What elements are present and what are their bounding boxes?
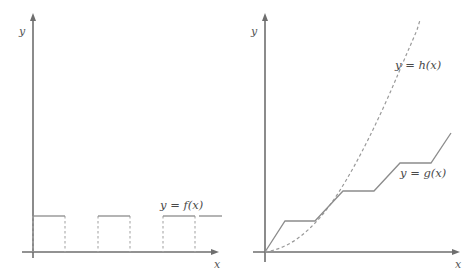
left-panel-x-axis: x	[22, 249, 221, 271]
x-axis-label: x	[455, 258, 462, 271]
y-axis-label: y	[250, 25, 258, 38]
y-axis-label: y	[18, 25, 26, 38]
x-axis-arrowhead	[452, 249, 460, 255]
curve-g	[265, 133, 451, 252]
figure-container: y x y = f(x)	[0, 0, 473, 280]
curve-f	[33, 216, 222, 252]
right-panel-y-axis: y	[250, 13, 268, 262]
x-axis-label: x	[214, 258, 221, 271]
x-axis-arrowhead	[211, 249, 219, 255]
curve-h	[265, 20, 420, 252]
curve-label-f: y = f(x)	[159, 198, 203, 212]
right-panel-x-axis: x	[253, 249, 462, 271]
curve-label-g: y = g(x)	[399, 166, 446, 180]
y-axis-arrowhead	[262, 13, 268, 21]
y-axis-arrowhead	[30, 13, 36, 21]
left-panel: y x y = f(x)	[0, 0, 237, 280]
curve-label-h: y = h(x)	[394, 58, 441, 72]
right-panel: y x y = h(x) y = g(x)	[237, 0, 473, 280]
